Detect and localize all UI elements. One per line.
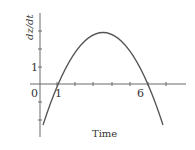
x-tick-label-1: 1 (55, 87, 62, 100)
dzdt-curve (43, 33, 163, 126)
y-tick-label-1: 1 (31, 61, 38, 74)
origin-label: 0 (31, 87, 38, 100)
y-axis-label: dz/dt (24, 14, 35, 40)
x-axis-label: Time (92, 128, 117, 139)
chart: 0 1 6 1 Time dz/dt (0, 0, 195, 150)
x-tick-label-6: 6 (137, 87, 144, 100)
